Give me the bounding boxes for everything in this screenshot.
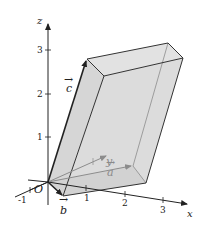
vector-b-label: b (60, 204, 67, 217)
x-axis-label: x (187, 208, 193, 219)
z-tick-label-1: 1 (37, 132, 43, 142)
z-tick-label-3: 3 (37, 45, 43, 55)
vector-c-arrow-top: → (64, 73, 73, 86)
vector-a-label: a (107, 166, 114, 179)
z-tick-label-2: 2 (37, 89, 43, 99)
x-tick-label-1: 1 (84, 193, 90, 203)
parallelepiped-diagram: z x y 1 2 3 -1 1 2 3 O → a → b c → (0, 0, 204, 227)
x-axis-back (28, 180, 48, 182)
x-tick-label-3: 3 (160, 205, 166, 215)
x-tick-label-neg1: -1 (18, 195, 27, 205)
x-tick-label-2: 2 (122, 198, 128, 208)
origin-label: O (34, 183, 43, 196)
z-axis-label: z (36, 15, 43, 26)
